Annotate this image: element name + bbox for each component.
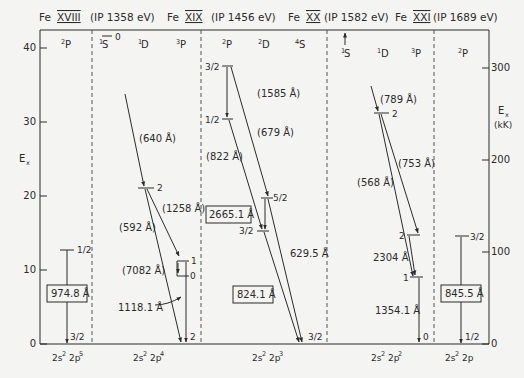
svg-text:3: 3 [279, 350, 283, 358]
wavelength-label: 2665.1 Å [209, 208, 254, 220]
level-j-label: 3/2 [470, 232, 484, 242]
ionization-potential: (IP 1582 eV) [324, 11, 389, 23]
wavelength-label: 1118.1 Å [118, 301, 163, 313]
svg-text:4: 4 [160, 350, 164, 358]
svg-text:2: 2 [62, 350, 66, 358]
ion-label: Fe [395, 11, 407, 23]
term-label: P [226, 39, 232, 50]
wavelength-label: (753 Å) [398, 157, 435, 169]
right-axis-label: E [498, 105, 504, 116]
wavelength-label: (822 Å) [206, 150, 243, 162]
wavelength-label: 1354.1 Å [375, 304, 420, 316]
configuration-label: 2s 2 2p 3 [252, 350, 283, 363]
title-fe-xix: Fe XIX (IP 1456 eV) [167, 11, 276, 23]
level-j-label: 1/2 [465, 332, 479, 342]
ion-stage: XIX [185, 11, 202, 23]
level-j-label: 2 [392, 109, 398, 119]
level-j-label: 1/2 [77, 245, 91, 255]
panel-fe-xviii: 2 P 1/2 974.8 Å 3/2 2s 2 2p 5 [47, 38, 91, 363]
left-axis-ticks: 0 10 20 30 40 E x [19, 42, 47, 349]
panel-fe-xxii: 2 P 3/2 845.5 Å 1/2 2s 2 2p [441, 47, 484, 363]
level-j-label: 1 [191, 256, 197, 266]
level-j-label: 2 [399, 231, 405, 241]
tick-label: 40 [23, 42, 36, 53]
ion-stage: XX [306, 11, 320, 23]
tick-label: 300 [491, 62, 510, 73]
ionization-potential: (IP 1358 eV) [90, 11, 155, 23]
configuration-label: 2s 2 2p 5 [52, 350, 83, 363]
wavelength-label: (568 Å) [357, 176, 394, 188]
svg-text:5: 5 [79, 350, 83, 358]
ionization-potential: (IP 1689 eV) [433, 11, 498, 23]
transition-arrow [371, 86, 378, 111]
ion-stage: XXI [413, 11, 430, 23]
level-j-label: 3/2 [308, 332, 322, 342]
wavelength-label: (1585 Å) [257, 87, 300, 99]
left-axis-label: E [19, 153, 25, 164]
left-axis-label-sub: x [26, 159, 30, 167]
ionization-potential: (IP 1456 eV) [211, 11, 276, 23]
svg-text:2: 2 [398, 350, 402, 358]
term-label: P [65, 39, 71, 50]
wavelength-label: 845.5 Å [445, 287, 484, 299]
configuration-label: 2s 2 2p [445, 350, 474, 363]
term-label: P [462, 48, 468, 59]
configuration-label: 2s 2 2p 4 [133, 350, 164, 363]
right-axis-ticks: 0 100 200 300 E x (kK) [482, 62, 512, 349]
wavelength-label: 629.5 Å [290, 247, 329, 259]
ion-label: Fe [39, 11, 51, 23]
wavelength-label: (679 Å) [257, 126, 294, 138]
title-fe-xviii: Fe XVIII (IP 1358 eV) [39, 11, 155, 23]
svg-text:2: 2 [143, 350, 147, 358]
panel-fe-xx: 2 P 2 D 4 S 3/2 1/2 (1585 Å) (679 Å) (82… [205, 38, 329, 363]
term-label: S [299, 39, 305, 50]
energy-level-diagram: Fe XVIII (IP 1358 eV) Fe XIX (IP 1456 eV… [0, 0, 524, 378]
wavelength-label: (7082 Å) [122, 264, 165, 276]
transition-arrow [381, 114, 418, 233]
term-label: D [381, 48, 389, 59]
term-label: P [180, 39, 186, 50]
tick-label: 0 [491, 338, 497, 349]
wavelength-label: 824.1 Å [237, 288, 276, 300]
level-j-label: 3/2 [205, 62, 219, 72]
wavelength-label: 2304 Å [373, 251, 409, 263]
level-j-label: 1/2 [205, 115, 219, 125]
wavelength-label: (1258 Å) [162, 202, 205, 214]
wavelength-label: 974.8 Å [51, 287, 90, 299]
term-label: D [141, 39, 149, 50]
level-j-label: 5/2 [273, 193, 287, 203]
panel-fe-xix: 0 1 S 1 D 3 P (640 Å) 2 (1258 Å) (592 Å)… [99, 32, 205, 363]
ion-label: Fe [167, 11, 179, 23]
level-j-label: 3/2 [70, 332, 84, 342]
wavelength-label: (640 Å) [139, 132, 176, 144]
level-j-label: 2 [157, 183, 163, 193]
level-j-label: 1 [403, 273, 409, 283]
ion-stage: XVIII [57, 11, 81, 23]
level-j-label: 0 [423, 332, 429, 342]
panel-fe-xxi: 1 S 1 D 3 P (789 Å) 2 (753 Å) (568 Å) 2 … [341, 33, 435, 363]
svg-text:2: 2 [262, 350, 266, 358]
configuration-label: 2s 2 2p 2 [371, 350, 402, 363]
tick-label: 0 [30, 338, 36, 349]
tick-label: 100 [491, 246, 510, 257]
wavelength-label: (592 Å) [119, 221, 156, 233]
ion-label: Fe [288, 11, 300, 23]
term-label: D [262, 39, 270, 50]
transition-arrow [268, 199, 302, 342]
tick-label: 10 [23, 264, 36, 275]
title-fe-xx: Fe XX (IP 1582 eV) [288, 11, 389, 23]
level-j-label: 2 [190, 332, 196, 342]
svg-text:2: 2 [381, 350, 385, 358]
tick-label: 30 [23, 116, 36, 127]
level-j-label: 0 [190, 271, 196, 281]
svg-text:2p: 2p [462, 353, 474, 363]
right-axis-unit: (kK) [494, 120, 512, 130]
svg-text:2: 2 [455, 350, 459, 358]
tick-label: 200 [491, 154, 510, 165]
level-j-label: 0 [115, 32, 121, 42]
title-row: Fe XVIII (IP 1358 eV) Fe XIX (IP 1456 eV… [39, 11, 389, 23]
wavelength-label: (789 Å) [380, 93, 417, 105]
term-label: P [415, 48, 421, 59]
tick-label: 20 [23, 190, 36, 201]
term-label: S [102, 39, 108, 50]
